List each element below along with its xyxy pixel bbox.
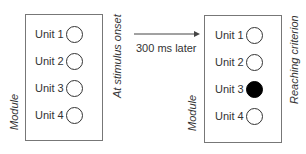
right-module-label: Module — [186, 95, 198, 131]
unit-label: Unit 4 — [35, 109, 64, 121]
unit-label: Unit 3 — [215, 83, 244, 95]
unit-label: Unit 3 — [35, 82, 64, 94]
unit-label: Unit 4 — [215, 110, 244, 122]
left-unit-4: Unit 4 — [35, 105, 83, 125]
unit-circle-icon — [246, 108, 263, 125]
right-unit-3: Unit 3 — [215, 79, 263, 99]
right-module-box: Unit 1 Unit 2 Unit 3 Unit 4 — [204, 15, 282, 143]
unit-label: Unit 2 — [215, 56, 244, 68]
left-unit-1: Unit 1 — [35, 24, 83, 44]
transition-label: 300 ms later — [136, 42, 197, 54]
left-module-label: Module — [8, 94, 20, 130]
right-state-label: Reaching criterion — [288, 15, 300, 104]
left-module-box: Unit 1 Unit 2 Unit 3 Unit 4 — [25, 14, 103, 141]
left-state-label: At stimulus onset — [111, 14, 123, 98]
unit-circle-icon — [66, 53, 83, 70]
unit-circle-icon — [66, 26, 83, 43]
right-unit-4: Unit 4 — [215, 106, 263, 126]
unit-circle-icon — [246, 54, 263, 71]
arrow-icon — [134, 29, 202, 39]
right-unit-1: Unit 1 — [215, 25, 263, 45]
unit-circle-filled-icon — [246, 81, 263, 98]
unit-label: Unit 2 — [35, 55, 64, 67]
left-unit-2: Unit 2 — [35, 51, 83, 71]
left-unit-3: Unit 3 — [35, 78, 83, 98]
unit-label: Unit 1 — [215, 29, 244, 41]
unit-circle-icon — [66, 80, 83, 97]
right-unit-2: Unit 2 — [215, 52, 263, 72]
unit-label: Unit 1 — [35, 28, 64, 40]
unit-circle-icon — [246, 27, 263, 44]
unit-circle-icon — [66, 107, 83, 124]
